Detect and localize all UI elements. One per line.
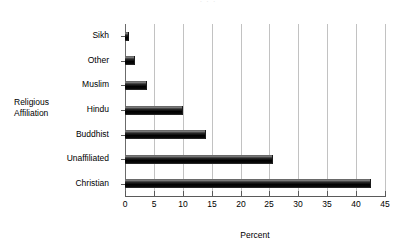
- x-axis-title: Percent: [125, 230, 385, 240]
- x-tick-0: [125, 191, 126, 196]
- bar-chart: . . . Religious Affiliation SikhOtherMus…: [0, 0, 416, 251]
- y-tick-labels: SikhOtherMuslimHinduBuddhistUnaffiliated…: [0, 24, 118, 196]
- x-tick-35: [327, 191, 328, 196]
- x-tick-40: [356, 191, 357, 196]
- y-tick-muslim: [121, 85, 125, 86]
- x-tick-label-35: 35: [314, 199, 340, 209]
- y-tick-sikh: [121, 36, 125, 37]
- x-tick-label-15: 15: [199, 199, 225, 209]
- x-tick-label-25: 25: [256, 199, 282, 209]
- x-tick-label-30: 30: [285, 199, 311, 209]
- gridline-x-45: [385, 24, 386, 196]
- x-tick-label-20: 20: [228, 199, 254, 209]
- bar-other: [125, 56, 135, 65]
- bar-christian: [125, 179, 371, 188]
- x-tick-30: [298, 191, 299, 196]
- y-tick-label-unaffiliated: Unaffiliated: [67, 153, 109, 163]
- bar-muslim: [125, 81, 147, 90]
- x-tick-45: [385, 191, 386, 196]
- x-tick-label-45: 45: [372, 199, 398, 209]
- y-tick-christian: [121, 184, 125, 185]
- x-axis-line: [125, 196, 386, 197]
- gridline-x-15: [212, 24, 213, 196]
- y-tick-buddhist: [121, 135, 125, 136]
- x-tick-15: [212, 191, 213, 196]
- x-tick-label-5: 5: [141, 199, 167, 209]
- x-tick-label-10: 10: [170, 199, 196, 209]
- x-tick-label-0: 0: [112, 199, 138, 209]
- bar-buddhist: [125, 130, 206, 139]
- y-tick-unaffiliated: [121, 159, 125, 160]
- x-tick-20: [241, 191, 242, 196]
- gridline-x-10: [183, 24, 184, 196]
- clipped-caption-sliver: . . .: [0, 0, 416, 2]
- gridline-x-35: [327, 24, 328, 196]
- bar-sikh: [125, 32, 129, 41]
- y-tick-label-muslim: Muslim: [82, 79, 109, 89]
- x-tick-25: [269, 191, 270, 196]
- y-tick-label-buddhist: Buddhist: [76, 129, 109, 139]
- bar-hindu: [125, 106, 183, 115]
- bar-unaffiliated: [125, 155, 273, 164]
- y-tick-label-other: Other: [88, 55, 109, 65]
- y-tick-label-hindu: Hindu: [87, 104, 109, 114]
- x-tick-5: [154, 191, 155, 196]
- y-tick-label-christian: Christian: [75, 178, 109, 188]
- x-tick-10: [183, 191, 184, 196]
- y-tick-hindu: [121, 110, 125, 111]
- x-tick-label-40: 40: [343, 199, 369, 209]
- gridline-x-20: [241, 24, 242, 196]
- gridline-x-40: [356, 24, 357, 196]
- y-tick-other: [121, 61, 125, 62]
- plot-area: [125, 24, 385, 196]
- y-tick-label-sikh: Sikh: [92, 30, 109, 40]
- gridline-x-25: [269, 24, 270, 196]
- gridline-x-30: [298, 24, 299, 196]
